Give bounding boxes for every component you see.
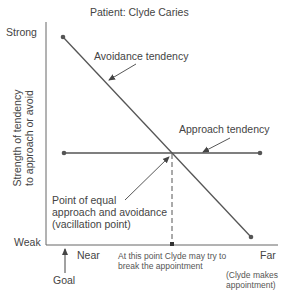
far-note-line2: appointment) [226,280,278,290]
y-axis-weak-label: Weak [14,236,41,248]
y-axis-title-line2: to approach or avoid [23,73,35,203]
y-axis-title: Strength of tendency to approach or avoi… [11,73,35,203]
break-line2: break the appointment [118,261,226,271]
break-appointment-annotation: At this point Clyde may try to break the… [118,251,226,271]
y-axis-strong-label: Strong [6,26,37,38]
equal-point-line1: Point of equal [52,194,167,206]
y-axis-title-line1: Strength of tendency [11,73,23,203]
approach-pointer-arrow [203,138,230,152]
goal-label: Goal [53,274,75,286]
far-note-line1: (Clyde makes [226,270,278,280]
avoidance-pointer-arrow [109,64,136,80]
approach-end-point [258,151,263,156]
break-line1: At this point Clyde may try to [118,251,226,261]
equal-point-line3: (vacillation point) [52,218,167,230]
avoidance-end-point [249,235,254,240]
approach-tendency-label: Approach tendency [179,123,269,135]
x-axis-far-label: Far [260,249,276,261]
vacillation-marker [170,242,174,246]
far-note-annotation: (Clyde makes appointment) [226,270,278,290]
avoidance-tendency-label: Avoidance tendency [94,50,188,62]
approach-start-point [62,151,67,156]
equal-point-annotation: Point of equal approach and avoidance (v… [52,194,167,230]
equal-point-line2: approach and avoidance [52,206,167,218]
avoidance-start-point [61,35,66,40]
x-axis-near-label: Near [77,249,100,261]
chart-title: Patient: Clyde Caries [90,6,189,18]
